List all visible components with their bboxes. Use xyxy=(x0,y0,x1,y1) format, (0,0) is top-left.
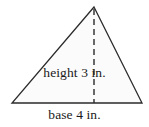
base-label: base 4 in. xyxy=(0,108,149,122)
triangle-figure: height 3 in. base 4 in. xyxy=(0,0,149,127)
triangle-outline xyxy=(12,7,142,103)
height-label: height 3 in. xyxy=(0,66,149,80)
